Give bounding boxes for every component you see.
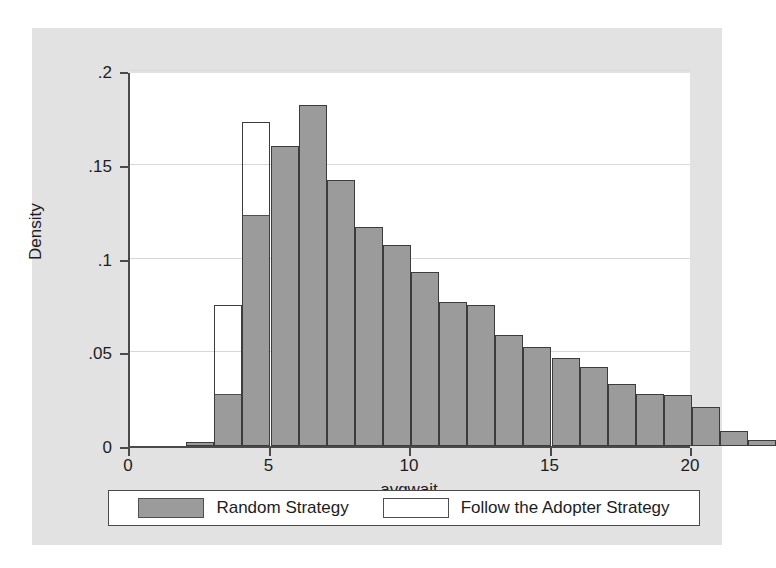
bar-follow-adopter xyxy=(720,431,748,446)
legend-entry[interactable]: Follow the Adopter Strategy xyxy=(383,498,670,518)
legend-label: Follow the Adopter Strategy xyxy=(461,498,670,518)
bar-follow-adopter xyxy=(355,227,383,446)
bar-follow-adopter xyxy=(411,272,439,446)
y-tick-label: .1 xyxy=(50,251,112,271)
y-tick-label: .05 xyxy=(50,344,112,364)
legend-label: Random Strategy xyxy=(216,498,348,518)
x-tick-mark xyxy=(550,448,552,456)
legend-swatch-filled xyxy=(138,498,204,518)
x-tick-label: 20 xyxy=(681,456,700,476)
bar-follow-adopter-overlay xyxy=(242,122,270,446)
bar-follow-adopter xyxy=(467,305,495,446)
bar-follow-adopter xyxy=(495,335,523,446)
bar-follow-adopter xyxy=(383,245,411,446)
x-tick-label: 10 xyxy=(400,456,419,476)
bar-follow-adopter xyxy=(692,407,720,446)
bar-follow-adopter-overlay xyxy=(214,305,242,446)
bar-follow-adopter xyxy=(299,105,327,446)
x-tick-mark xyxy=(690,448,692,456)
y-tick-label: 0 xyxy=(50,438,112,458)
bar-follow-adopter xyxy=(523,347,551,446)
gridline xyxy=(130,70,690,71)
bar-follow-adopter xyxy=(439,302,467,446)
legend-swatch-hollow xyxy=(383,498,449,518)
y-tick-mark xyxy=(120,447,128,449)
bar-follow-adopter xyxy=(271,146,299,446)
x-tick-mark xyxy=(128,448,130,456)
y-tick-label: .2 xyxy=(50,63,112,83)
bar-follow-adopter xyxy=(186,442,214,446)
bar-follow-adopter xyxy=(636,394,664,447)
bar-follow-adopter xyxy=(327,180,355,446)
y-tick-label: .15 xyxy=(50,157,112,177)
plot-area xyxy=(128,73,690,448)
y-tick-mark xyxy=(120,260,128,262)
bar-follow-adopter xyxy=(552,358,580,446)
legend-entry[interactable]: Random Strategy xyxy=(138,498,348,518)
gridline xyxy=(130,164,690,165)
bar-follow-adopter xyxy=(580,367,608,446)
x-tick-label: 15 xyxy=(540,456,559,476)
y-tick-mark xyxy=(120,72,128,74)
x-tick-label: 5 xyxy=(264,456,273,476)
figure-card: Density .2.15.1.050 05101520 avgwait Ran… xyxy=(32,28,722,545)
x-tick-mark xyxy=(269,448,271,456)
plot-inner xyxy=(130,73,690,446)
chart-legend: Random StrategyFollow the Adopter Strate… xyxy=(108,490,700,526)
y-axis-label: Density xyxy=(26,203,46,260)
bar-follow-adopter xyxy=(608,384,636,446)
x-tick-label: 0 xyxy=(123,456,132,476)
y-tick-mark xyxy=(120,166,128,168)
bar-follow-adopter xyxy=(748,440,776,446)
y-tick-mark xyxy=(120,353,128,355)
bar-follow-adopter xyxy=(664,395,692,446)
x-tick-mark xyxy=(409,448,411,456)
